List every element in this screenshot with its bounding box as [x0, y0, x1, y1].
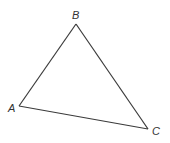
vertex-label-b: B — [72, 9, 79, 21]
edge-ca — [19, 106, 148, 129]
vertex-label-c: C — [152, 125, 160, 137]
triangle-diagram: A B C — [0, 0, 170, 143]
edge-bc — [76, 24, 148, 129]
edge-ab — [19, 24, 76, 106]
vertex-label-a: A — [7, 102, 15, 114]
